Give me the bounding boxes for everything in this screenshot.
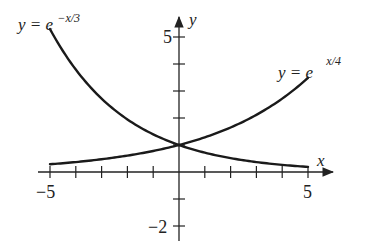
function-graph: x y −5 5 5 −2 y = e −x/3 y = e x/4 [0, 0, 371, 242]
curve1-label: y = e −x/3 [16, 11, 80, 34]
y-tick-label-max: 5 [163, 27, 172, 47]
x-tick-label-min: −5 [36, 182, 55, 202]
y-tick-label-min: −2 [148, 217, 167, 237]
curve2-label: y = e x/4 [276, 54, 341, 82]
x-axis-label: x [316, 151, 325, 170]
x-tick-label-max: 5 [303, 182, 312, 202]
y-axis-label: y [187, 10, 197, 29]
